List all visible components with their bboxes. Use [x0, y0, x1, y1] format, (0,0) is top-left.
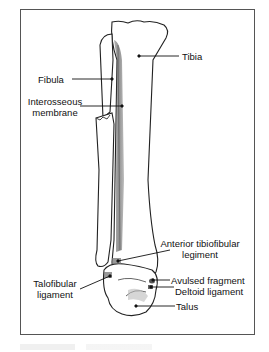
- label-fibula: Fibula: [38, 74, 64, 85]
- label-tibia: Tibia: [182, 51, 202, 62]
- label-avulsed-fragment: Avulsed fragment: [171, 275, 245, 286]
- label-interosseous-line2: membrane: [26, 107, 84, 118]
- label-interosseous-membrane: Interosseous membrane: [26, 96, 84, 118]
- label-talofibular-line2: ligament: [28, 289, 82, 300]
- label-talus: Talus: [176, 301, 198, 312]
- label-interosseous-line1: Interosseous: [26, 96, 84, 107]
- fibula-upper: [100, 34, 113, 118]
- label-talofibular-ligament: Talofibular ligament: [28, 278, 82, 300]
- label-talofibular-line1: Talofibular: [28, 278, 82, 289]
- fibula-lower: [96, 113, 114, 267]
- cropped-caption: [20, 344, 240, 350]
- label-anterior-tibiofibular-line1: Anterior tibiofibular: [150, 238, 250, 249]
- label-anterior-tibiofibular-line2: legiment: [150, 249, 250, 260]
- label-deltoid-ligament: Deltoid ligament: [175, 286, 243, 297]
- label-anterior-tibiofibular-ligament: Anterior tibiofibular legiment: [150, 238, 250, 260]
